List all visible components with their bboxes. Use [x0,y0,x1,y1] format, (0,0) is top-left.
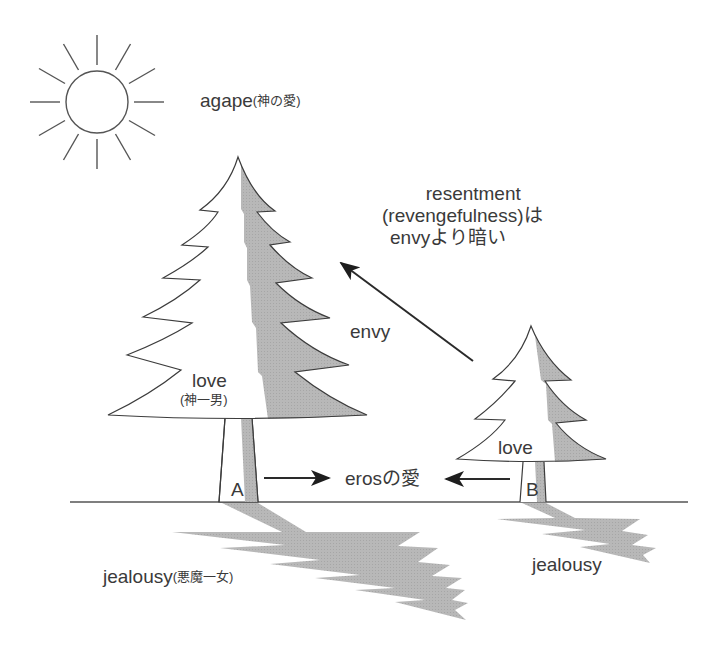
eros-label: erosの愛 [345,469,420,488]
top-cutoff-text [262,0,502,2]
envy-arrow [341,263,473,361]
jealousy-a-text: jealousy [103,566,173,587]
agape-note: (神の愛) [253,93,301,108]
trunk-a-label: A [231,480,244,499]
jealousy-a-note: (悪魔一女) [173,569,234,584]
trunk-b-label: B [526,480,539,499]
resentment-line-3: envyより暗い [390,227,543,249]
resentment-note: resentment (revengefulness)は envyより暗い [404,183,543,249]
resentment-line-1: resentment [404,183,543,205]
envy-label: envy [350,322,390,341]
agape-text: agape [200,90,253,111]
tree-a [108,157,367,419]
tree-a-love-label: love [192,371,227,390]
tree-b-love-label: love [498,438,533,457]
sun-icon [30,35,164,169]
agape-label: agape(神の愛) [200,91,301,110]
jealousy-a-label: jealousy(悪魔一女) [103,567,233,586]
resentment-line-2: (revengefulness)は [382,205,543,227]
tree-a-love-note: (神一男) [180,393,228,406]
shadow-a [172,503,468,620]
jealousy-b-label: jealousy [532,555,602,574]
